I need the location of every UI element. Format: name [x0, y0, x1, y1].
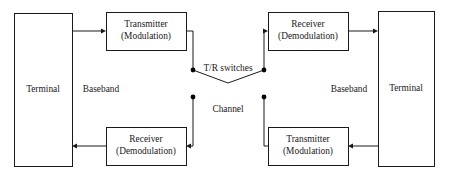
tr-switches-label: T/R switches: [203, 63, 253, 73]
link-transmitter-right-to-channel-node: [264, 97, 268, 146]
link-receiver-right-to-terminal-right-arrowhead: [373, 28, 378, 33]
link-terminal-left-to-transmitter-left: [72, 28, 106, 33]
link-terminal-left-to-transmitter-left-arrowhead: [101, 28, 106, 33]
baseband-label-left: Baseband: [83, 84, 120, 94]
link-transmitter-left-to-switch: [186, 31, 193, 70]
link-receiver-right-to-terminal-right: [348, 28, 378, 33]
transmitter-right-label: (Modulation): [283, 146, 333, 157]
diagram-canvas: TerminalTransmitter(Modulation)Receiver(…: [0, 0, 451, 179]
transmitter-right: Transmitter(Modulation): [269, 128, 349, 166]
receiver-left-label: Receiver: [129, 134, 163, 144]
receiver-left-label: (Demodulation): [116, 146, 176, 157]
switch-node-receive-right: [262, 68, 267, 73]
link-transmitter-right-to-channel-node-line: [264, 97, 268, 146]
link-switch-to-receiver-right-arrowhead: [263, 28, 268, 33]
link-transmitter-left-to-switch-line: [186, 31, 193, 70]
transceiver-block-diagram: TerminalTransmitter(Modulation)Receiver(…: [0, 0, 451, 179]
link-terminal-right-to-transmitter-right: [348, 143, 378, 148]
link-switch-to-receiver-right-line: [264, 31, 265, 70]
terminal-right-label: Terminal: [389, 83, 423, 93]
baseband-label-right: Baseband: [331, 84, 368, 94]
receiver-right: Receiver(Demodulation): [269, 13, 349, 51]
switch-node-transmit-left: [191, 68, 196, 73]
terminal-right: Terminal: [379, 12, 435, 167]
link-channel-node-to-receiver-left-line: [190, 97, 193, 146]
channel-node-left: [191, 95, 196, 100]
link-receiver-left-to-terminal-left: [72, 143, 106, 148]
terminal-left: Terminal: [15, 14, 73, 167]
box-layer: TerminalTransmitter(Modulation)Receiver(…: [15, 12, 435, 167]
transmitter-left-label: (Modulation): [121, 31, 171, 42]
free-label-layer: BasebandBasebandT/R switchesChannel: [83, 63, 368, 114]
transmitter-right-label: Transmitter: [286, 134, 330, 144]
receiver-left: Receiver(Demodulation): [107, 128, 187, 166]
link-channel-node-to-receiver-left: [186, 97, 193, 149]
transmitter-left-label: Transmitter: [124, 19, 168, 29]
channel-label: Channel: [212, 104, 244, 114]
link-switch-to-receiver-right: [263, 28, 268, 70]
transmitter-left: Transmitter(Modulation): [107, 13, 187, 51]
receiver-right-label: (Demodulation): [278, 31, 338, 42]
terminal-left-label: Terminal: [26, 84, 60, 94]
channel-node-right: [262, 95, 267, 100]
receiver-right-label: Receiver: [291, 19, 325, 29]
